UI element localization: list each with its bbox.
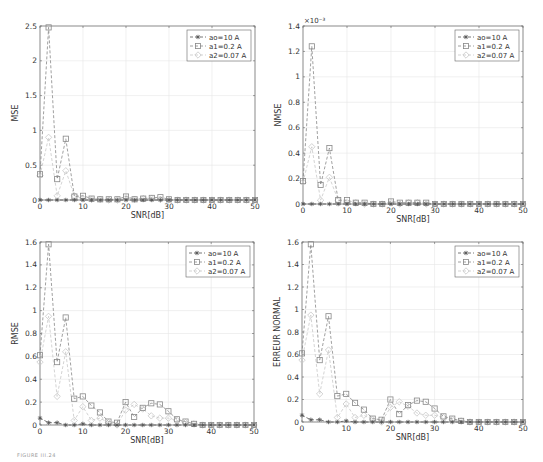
data-point bbox=[468, 202, 472, 206]
y-tick-label: 0 bbox=[294, 418, 299, 427]
data-point bbox=[450, 202, 454, 206]
chart-svg: 0102030405000.20.40.60.811.21.4×10⁻³SNR[… bbox=[270, 0, 543, 225]
legend-label: a1=0.2 A bbox=[209, 43, 242, 51]
data-point bbox=[227, 198, 231, 202]
data-point bbox=[317, 418, 321, 422]
data-point bbox=[158, 198, 162, 202]
data-point bbox=[335, 420, 339, 424]
x-tick-label: 20 bbox=[121, 202, 131, 211]
data-point bbox=[218, 423, 222, 427]
data-point bbox=[72, 423, 76, 427]
data-point bbox=[354, 202, 358, 206]
legend-label: ao=10 A bbox=[209, 34, 240, 42]
x-tick-label: 0 bbox=[38, 202, 43, 211]
data-point bbox=[300, 413, 304, 417]
data-point bbox=[218, 198, 222, 202]
data-point bbox=[132, 198, 136, 202]
x-axis-label: SNR[dB] bbox=[396, 433, 429, 442]
data-point bbox=[512, 420, 516, 424]
x-axis-label: SNR[dB] bbox=[396, 215, 429, 224]
y-tick-label: 0.4 bbox=[288, 149, 300, 158]
data-point bbox=[389, 202, 393, 206]
legend-label: a2=0.07 A bbox=[208, 268, 245, 276]
chart-nmse: 0102030405000.20.40.60.811.21.4×10⁻³SNR[… bbox=[270, 0, 543, 225]
data-point bbox=[115, 198, 119, 202]
data-point bbox=[512, 202, 516, 206]
data-point bbox=[424, 202, 428, 206]
data-point bbox=[252, 423, 256, 427]
data-point bbox=[38, 198, 42, 202]
data-point bbox=[477, 420, 481, 424]
data-point bbox=[344, 419, 348, 423]
data-point bbox=[433, 202, 437, 206]
data-point bbox=[485, 420, 489, 424]
y-tick-label: 0.8 bbox=[287, 328, 299, 337]
data-point bbox=[98, 198, 102, 202]
y-tick-label: 1.2 bbox=[287, 283, 299, 292]
y-tick-label: 0.2 bbox=[25, 398, 37, 407]
chart-svg: 0102030405000.20.40.60.811.21.41.6SNR[dB… bbox=[0, 228, 270, 450]
data-point bbox=[209, 423, 213, 427]
data-point bbox=[193, 198, 197, 202]
data-point bbox=[406, 202, 410, 206]
data-point bbox=[379, 420, 383, 424]
legend-marker-icon bbox=[464, 35, 468, 39]
data-point bbox=[362, 202, 366, 206]
x-tick-label: 20 bbox=[121, 427, 131, 436]
x-tick-label: 10 bbox=[78, 427, 88, 436]
x-tick-label: 20 bbox=[386, 424, 396, 433]
data-point bbox=[200, 423, 204, 427]
y-tick-label: 1.4 bbox=[288, 22, 300, 31]
y-multiplier: ×10⁻³ bbox=[304, 17, 325, 25]
legend-label: ao=10 A bbox=[208, 250, 239, 258]
y-tick-label: 0.8 bbox=[288, 98, 300, 107]
x-tick-label: 10 bbox=[341, 424, 351, 433]
legend-label: ao=10 A bbox=[477, 250, 508, 258]
data-point bbox=[345, 202, 349, 206]
data-point bbox=[362, 420, 366, 424]
y-tick-label: 1.4 bbox=[287, 260, 299, 269]
x-tick-label: 10 bbox=[342, 206, 352, 215]
legend-label: a1=0.2 A bbox=[208, 259, 241, 267]
data-point bbox=[521, 420, 525, 424]
legend-label: a1=0.2 A bbox=[477, 43, 510, 51]
y-tick-label: 2.5 bbox=[25, 22, 37, 31]
data-point bbox=[327, 202, 331, 206]
data-point bbox=[141, 198, 145, 202]
data-point bbox=[309, 418, 313, 422]
data-point bbox=[477, 202, 481, 206]
data-point bbox=[468, 420, 472, 424]
data-point bbox=[107, 198, 111, 202]
legend: ao=10 Aa1=0.2 Aa2=0.07 A bbox=[187, 30, 251, 61]
data-point bbox=[175, 198, 179, 202]
data-point bbox=[380, 202, 384, 206]
data-point bbox=[46, 421, 50, 425]
data-point bbox=[243, 423, 247, 427]
y-tick-label: 0.4 bbox=[287, 373, 299, 382]
data-point bbox=[89, 423, 93, 427]
data-point bbox=[326, 420, 330, 424]
data-point bbox=[415, 202, 419, 206]
data-point bbox=[150, 198, 154, 202]
data-point bbox=[310, 202, 314, 206]
data-point bbox=[415, 420, 419, 424]
data-point bbox=[184, 198, 188, 202]
y-tick-label: 1.4 bbox=[25, 260, 37, 269]
data-point bbox=[450, 420, 454, 424]
data-point bbox=[301, 202, 305, 206]
data-point bbox=[38, 416, 42, 420]
data-point bbox=[494, 420, 498, 424]
data-point bbox=[201, 198, 205, 202]
y-tick-label: 0.8 bbox=[25, 329, 37, 338]
y-tick-label: 0.4 bbox=[25, 375, 37, 384]
figure-caption: FIGURE III.24 bbox=[17, 452, 56, 458]
y-tick-label: 1.6 bbox=[25, 238, 37, 247]
data-point bbox=[64, 198, 68, 202]
y-tick-label: 1.2 bbox=[25, 283, 37, 292]
data-point bbox=[235, 423, 239, 427]
data-point bbox=[115, 423, 119, 427]
chart-rmse: 0102030405000.20.40.60.811.21.41.6SNR[dB… bbox=[0, 228, 270, 450]
data-point bbox=[424, 420, 428, 424]
data-point bbox=[106, 423, 110, 427]
data-point bbox=[141, 423, 145, 427]
